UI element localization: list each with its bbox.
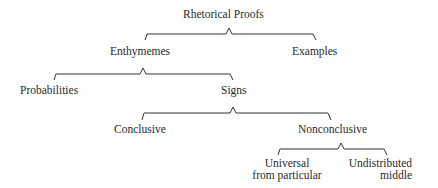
node-universal-from-particular: Universal from particular xyxy=(252,157,322,181)
brace-signs xyxy=(142,107,331,120)
node-examples: Examples xyxy=(292,45,337,57)
brace-enthymemes xyxy=(54,68,233,80)
brace-nonconclusive xyxy=(278,143,387,155)
node-nonconclusive: Nonconclusive xyxy=(298,123,367,135)
node-conclusive: Conclusive xyxy=(114,123,166,135)
node-signs: Signs xyxy=(221,84,247,96)
brace-rhetorical-proofs xyxy=(145,28,316,40)
node-undistributed-line2: middle xyxy=(345,169,412,181)
node-undistributed-middle: Undistributed middle xyxy=(345,157,412,181)
node-enthymemes: Enthymemes xyxy=(110,45,170,57)
node-universal-line1: Universal xyxy=(252,157,322,169)
node-universal-line2: from particular xyxy=(252,169,322,181)
node-probabilities: Probabilities xyxy=(20,84,78,96)
node-undistributed-line1: Undistributed xyxy=(345,157,412,169)
node-rhetorical-proofs: Rhetorical Proofs xyxy=(183,8,264,20)
